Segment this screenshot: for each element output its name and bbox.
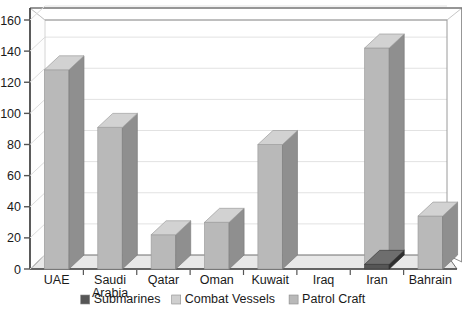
y-axis-tick-label: 0 — [14, 263, 21, 277]
bar-chart: 020406080100120140160 UAESaudiArabiaQata… — [0, 0, 462, 314]
bar-side-face — [282, 131, 297, 270]
legend-label: Patrol Craft — [302, 292, 366, 306]
bar-column — [258, 131, 298, 270]
x-axis-category-label: Iran — [366, 273, 388, 287]
bar-column — [365, 34, 405, 269]
legend-label: Combat Vessels — [185, 292, 275, 306]
chart-svg: 020406080100120140160 UAESaudiArabiaQata… — [0, 0, 462, 314]
submarine-segment-front — [365, 264, 390, 269]
x-axis-category-label: Qatar — [148, 273, 179, 287]
bar-front-face — [418, 216, 443, 269]
bar-column — [418, 202, 458, 269]
x-axis-category-label: Bahrain — [409, 273, 452, 287]
x-axis-category-label: Saudi — [94, 273, 126, 287]
bar-front-face — [98, 127, 123, 269]
bar-front-face — [44, 70, 69, 269]
legend-label: Submarines — [94, 292, 161, 306]
y-axis-tick-label: 20 — [7, 231, 21, 245]
bar-front-face — [365, 48, 390, 264]
bar-column — [98, 113, 138, 269]
legend-swatch — [172, 295, 181, 304]
bar-column — [44, 56, 84, 269]
bar-side-face — [389, 34, 404, 264]
bar-front-face — [205, 222, 230, 269]
legend-swatch — [81, 295, 90, 304]
y-axis-tick-label: 100 — [0, 107, 21, 121]
y-axis-tick-label: 120 — [0, 76, 21, 90]
y-axis-tick-label: 80 — [7, 138, 21, 152]
bar-front-face — [151, 235, 176, 269]
chart-legend: SubmarinesCombat VesselsPatrol Craft — [81, 292, 366, 306]
bar-side-face — [122, 113, 137, 269]
x-axis-category-label: Oman — [200, 273, 234, 287]
y-axis-tick-label: 60 — [7, 169, 21, 183]
x-axis-category-label: Iraq — [313, 273, 335, 287]
y-axis-tick-label: 160 — [0, 14, 21, 28]
bar-front-face — [258, 145, 283, 270]
bar-column — [205, 208, 245, 269]
x-axis-category-label: UAE — [44, 273, 70, 287]
x-axis-category-label: Kuwait — [251, 273, 289, 287]
plot-ceiling — [30, 8, 462, 20]
bar-side-face — [69, 56, 84, 269]
y-axis-tick-label: 40 — [7, 200, 21, 214]
plot-left-wall — [30, 8, 45, 269]
legend-swatch — [289, 295, 298, 304]
y-axis-tick-label: 140 — [0, 45, 21, 59]
